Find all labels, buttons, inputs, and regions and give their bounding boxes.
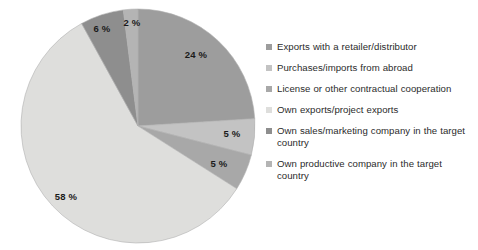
legend-item-own-sales-marketing-company[interactable]: Own sales/marketing company in the targe… [266, 125, 476, 149]
legend-swatch-icon [266, 128, 272, 134]
legend-item-own-productive-company[interactable]: Own productive company in the target cou… [266, 158, 476, 182]
legend-swatch-icon [266, 161, 272, 167]
pie-label-license-or-contractual-cooperation: 5 % [211, 158, 228, 169]
legend-swatch-icon [266, 65, 272, 71]
pie-label-exports-with-retailer-distributor: 24 % [185, 49, 208, 60]
pie-label-own-productive-company: 2 % [124, 17, 141, 28]
pie-slice-exports-with-retailer-distributor [138, 9, 255, 126]
legend-swatch-icon [266, 86, 272, 92]
legend-swatch-icon [266, 44, 272, 50]
legend-item-label: License or other contractual cooperation [277, 83, 451, 95]
legend-item-own-exports-project-exports[interactable]: Own exports/project exports [266, 104, 476, 116]
pie-plot-area: 24 %5 %5 %58 %6 %2 % [0, 0, 262, 250]
chart-legend: Exports with a retailer/distributorPurch… [266, 41, 476, 191]
pie-slice-group [21, 9, 255, 243]
legend-item-label: Own exports/project exports [277, 104, 398, 116]
legend-item-exports-with-retailer-distributor[interactable]: Exports with a retailer/distributor [266, 41, 476, 53]
legend-item-label: Own sales/marketing company in the targe… [277, 125, 476, 149]
pie-svg: 24 %5 %5 %58 %6 %2 % [0, 0, 262, 250]
legend-item-label: Purchases/imports from abroad [277, 62, 413, 74]
pie-label-purchases-imports-from-abroad: 5 % [224, 128, 241, 139]
legend-item-purchases-imports-from-abroad[interactable]: Purchases/imports from abroad [266, 62, 476, 74]
legend-item-license-or-contractual-cooperation[interactable]: License or other contractual cooperation [266, 83, 476, 95]
legend-item-label: Own productive company in the target cou… [277, 158, 476, 182]
pie-label-own-exports-project-exports: 58 % [55, 191, 78, 202]
pie-chart-figure: 24 %5 %5 %58 %6 %2 % Exports with a reta… [0, 0, 478, 250]
pie-label-own-sales-marketing-company: 6 % [94, 23, 111, 34]
legend-item-label: Exports with a retailer/distributor [277, 41, 417, 53]
legend-swatch-icon [266, 107, 272, 113]
